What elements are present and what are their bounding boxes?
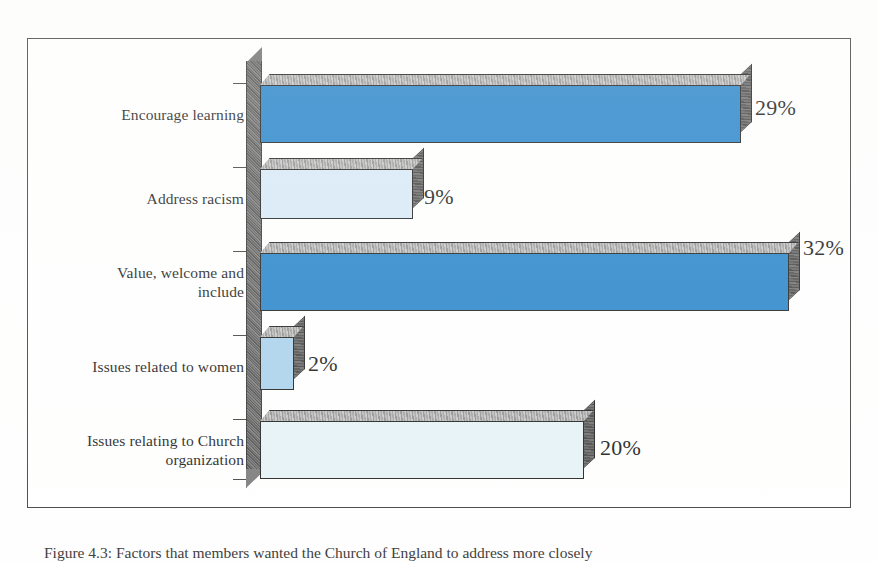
category-label-line: Encourage learning	[121, 106, 244, 123]
bar-top-face-1	[260, 158, 423, 169]
category-label-value-welcome-include: Value, welcome and include	[34, 263, 244, 301]
scanned-page: 29% 9% 32% 2% 20% Encourage learning Add…	[0, 0, 877, 562]
bar-encourage-learning[interactable]	[260, 85, 741, 143]
bar-front-face-1	[260, 169, 413, 219]
bar-issues-church-organization[interactable]	[260, 421, 584, 479]
axis-tick-2	[233, 251, 246, 252]
category-label-line: include	[198, 283, 244, 300]
figure-caption: Figure 4.3: Factors that members wanted …	[44, 543, 844, 562]
bar-top-face-2	[260, 242, 799, 253]
value-label-encourage-learning: 29%	[755, 95, 796, 121]
bar-address-racism[interactable]	[260, 169, 413, 219]
bar-front-face-2	[260, 253, 789, 311]
axis-tick-4	[233, 419, 246, 420]
bar-top-face-0	[260, 74, 751, 85]
chart-frame: 29% 9% 32% 2% 20% Encourage learning Add…	[27, 38, 851, 508]
category-label-issues-related-to-women: Issues related to women	[34, 357, 244, 376]
plot-area: 29% 9% 32% 2% 20% Encourage learning Add…	[28, 39, 852, 509]
value-label-issues-church-organization: 20%	[600, 435, 641, 461]
category-label-line: organization	[166, 451, 244, 468]
bar-front-face-3	[260, 337, 294, 390]
category-label-address-racism: Address racism	[34, 189, 244, 208]
category-label-line: Value, welcome and	[117, 264, 244, 281]
value-label-issues-related-to-women: 2%	[308, 351, 338, 377]
axis-tick-5	[233, 479, 246, 480]
axis-tick-0	[233, 83, 246, 84]
bar-front-face-4	[260, 421, 584, 479]
category-label-line: Issues relating to Church	[87, 432, 244, 449]
axis-tick-1	[233, 167, 246, 168]
axis-tick-3	[233, 335, 246, 336]
value-label-value-welcome-include: 32%	[803, 235, 844, 261]
value-label-address-racism: 9%	[424, 184, 454, 210]
category-label-line: Issues related to women	[92, 358, 244, 375]
category-label-encourage-learning: Encourage learning	[34, 105, 244, 124]
bar-side-face-1	[413, 148, 424, 208]
bar-issues-related-to-women[interactable]	[260, 337, 294, 390]
category-label-line: Address racism	[147, 190, 244, 207]
bar-front-face-0	[260, 85, 741, 143]
bar-top-face-4	[260, 410, 594, 421]
bar-value-welcome-include[interactable]	[260, 253, 789, 311]
category-label-issues-church-organization: Issues relating to Church organization	[34, 431, 244, 469]
